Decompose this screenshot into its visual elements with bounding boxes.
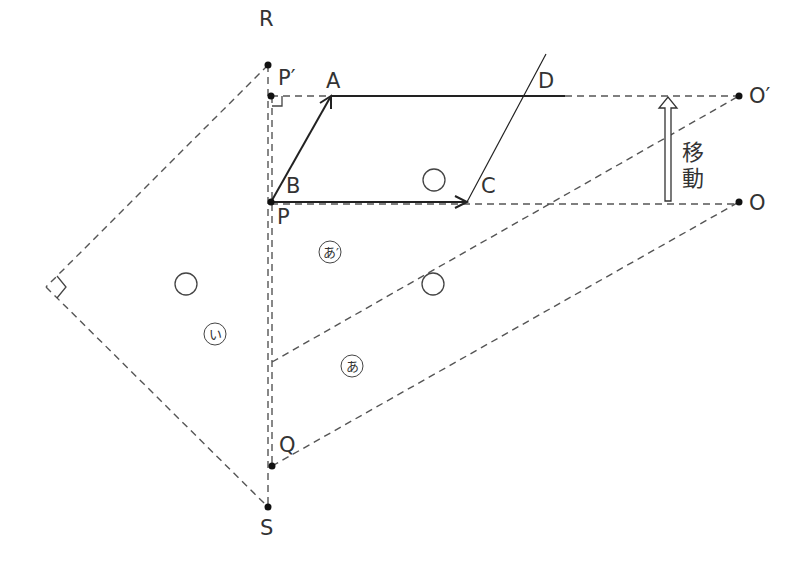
region-label-a: あ <box>346 359 359 374</box>
dashed-line-R-corner <box>46 65 268 287</box>
dashed-line-Q-O <box>272 202 739 466</box>
circle-mark-BC <box>423 169 445 191</box>
region-label-a-prime: あ′ <box>323 245 339 260</box>
circle-mark-middle <box>422 273 444 295</box>
label-R: R <box>259 7 274 31</box>
vector-BA <box>271 96 331 202</box>
dot-P <box>268 199 275 206</box>
label-Oprime: O′ <box>749 84 771 108</box>
label-A: A <box>326 69 341 93</box>
dot-Pprime <box>268 93 275 100</box>
dashed-construction-lines <box>46 65 739 507</box>
move-label-char-1: 移 <box>682 140 704 165</box>
solid-figure-lines <box>271 54 565 208</box>
label-O: O <box>749 191 766 215</box>
dashed-line-corner-S <box>46 287 268 507</box>
equal-marks <box>175 169 445 377</box>
dot-S <box>265 504 272 511</box>
region-label-i: い <box>209 327 222 342</box>
hollow-up-arrow-icon <box>659 97 677 201</box>
label-P: P <box>277 205 290 229</box>
move-label-char-2: 動 <box>682 166 704 191</box>
dot-R <box>265 62 272 69</box>
line-CD-extended <box>467 54 546 202</box>
right-angle-mark-left-corner <box>57 276 66 298</box>
dot-O <box>736 199 743 206</box>
label-C: C <box>481 174 496 198</box>
dot-Oprime <box>736 93 743 100</box>
label-S: S <box>260 516 273 540</box>
move-label: 移 動 <box>682 140 704 191</box>
circle-mark-left <box>175 273 197 295</box>
label-B: B <box>286 174 300 198</box>
move-arrow <box>659 97 677 201</box>
label-D: D <box>538 69 554 93</box>
label-Pprime: P′ <box>278 66 296 90</box>
dot-Q <box>269 463 276 470</box>
right-angle-marks <box>57 96 282 298</box>
point-labels: R P′ A D O′ B P C O Q S <box>259 7 771 540</box>
geometry-diagram: R P′ A D O′ B P C O Q S 移 動 あ′ い あ <box>0 0 804 573</box>
label-Q: Q <box>279 433 296 457</box>
